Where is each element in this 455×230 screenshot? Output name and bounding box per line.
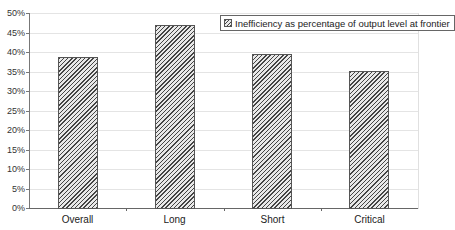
y-tick-label: 30%: [0, 86, 25, 96]
y-tick-label: 40%: [0, 47, 25, 57]
legend-swatch-icon: [224, 19, 232, 27]
x-tick-mark: [321, 208, 322, 211]
bar-critical: [349, 71, 389, 209]
x-tick-label: Critical: [321, 214, 418, 225]
y-tick-label: 25%: [0, 106, 25, 116]
y-tick-label: 5%: [0, 184, 25, 194]
x-tick-mark: [224, 208, 225, 211]
y-tick-label: 0%: [0, 203, 25, 213]
bar-long: [155, 25, 195, 209]
x-tick-label: Long: [126, 214, 223, 225]
y-axis: [29, 13, 30, 209]
chart-legend: Inefficiency as percentage of output lev…: [220, 15, 455, 31]
y-tick-label: 15%: [0, 145, 25, 155]
y-tick-label: 10%: [0, 164, 25, 174]
bar-overall: [58, 57, 98, 209]
y-tick-label: 45%: [0, 28, 25, 38]
legend-label: Inefficiency as percentage of output lev…: [235, 18, 450, 29]
bar-short: [252, 54, 292, 209]
x-tick-label: Short: [224, 214, 321, 225]
x-tick-mark: [126, 208, 127, 211]
plot-right-border: [418, 13, 419, 209]
x-tick-label: Overall: [29, 214, 126, 225]
y-tick-label: 50%: [0, 8, 25, 18]
gridline: [29, 52, 418, 53]
y-tick-label: 20%: [0, 125, 25, 135]
y-tick-label: 35%: [0, 67, 25, 77]
gridline: [29, 33, 418, 34]
gridline: [29, 13, 418, 14]
